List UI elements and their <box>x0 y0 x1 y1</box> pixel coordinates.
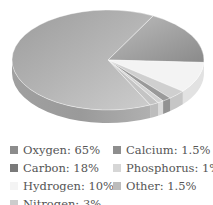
legend-swatch <box>10 146 18 154</box>
legend-label: Other: 1.5% <box>126 179 197 193</box>
legend-item-oxygen: Oxygen: 65% <box>10 142 100 158</box>
legend-label: Oxygen: 65% <box>23 143 100 157</box>
legend-label: Phosphorus: 1% <box>126 161 213 175</box>
pie-side-other <box>150 103 158 118</box>
pie-slices <box>12 10 204 123</box>
legend-swatch <box>113 182 121 190</box>
legend-item-carbon: Carbon: 18% <box>10 160 99 176</box>
legend-item-nitrogen: Nitrogen: 3% <box>10 196 101 205</box>
legend-item-calcium: Calcium: 1.5% <box>113 142 211 158</box>
legend-label: Hydrogen: 10% <box>23 179 114 193</box>
legend-swatch <box>10 182 18 190</box>
legend-swatch <box>10 164 18 172</box>
legend-swatch <box>10 200 18 205</box>
legend-swatch <box>113 164 121 172</box>
pie-chart <box>0 0 213 135</box>
legend-item-phosphorus: Phosphorus: 1% <box>113 160 213 176</box>
legend-swatch <box>113 146 121 154</box>
legend-label: Nitrogen: 3% <box>23 197 101 205</box>
pie-side-phosphorus <box>158 101 163 116</box>
legend-label: Calcium: 1.5% <box>126 143 211 157</box>
legend-label: Carbon: 18% <box>23 161 99 175</box>
legend-item-hydrogen: Hydrogen: 10% <box>10 178 114 194</box>
legend-item-other: Other: 1.5% <box>113 178 197 194</box>
